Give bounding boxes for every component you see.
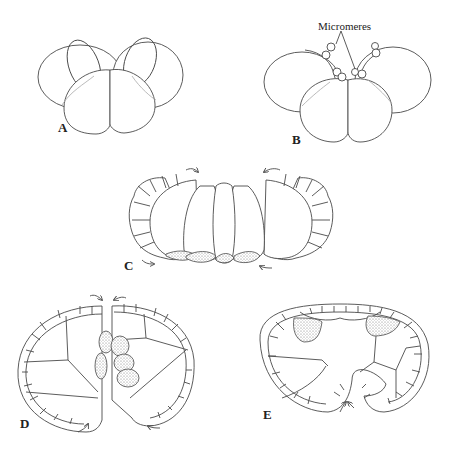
panel-b-drawing — [264, 31, 431, 142]
panel-e-drawing — [260, 304, 429, 412]
panel-d-drawing — [18, 295, 194, 432]
panel-label-e: E — [263, 407, 272, 423]
panel-label-b: B — [292, 132, 301, 148]
panel-label-c: C — [124, 258, 133, 274]
figure-canvas — [0, 0, 455, 452]
panel-label-a: A — [58, 120, 67, 136]
panel-c-drawing — [129, 169, 333, 268]
panel-label-d: D — [20, 416, 29, 432]
micromeres-annotation: Micromeres — [318, 20, 371, 32]
panel-a-drawing — [38, 33, 183, 134]
